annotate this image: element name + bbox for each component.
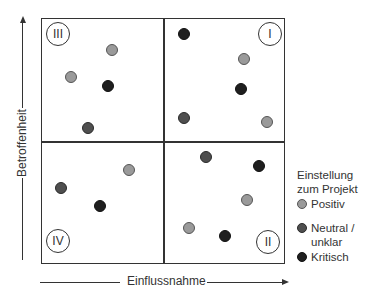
stakeholder-dot-positiv bbox=[65, 71, 77, 83]
critical-dot-icon bbox=[297, 252, 307, 262]
x-axis-line bbox=[207, 282, 283, 283]
y-axis-line bbox=[22, 178, 23, 260]
legend: Einstellung zum Projekt Positiv Neutral … bbox=[297, 168, 358, 264]
stakeholder-dot-positiv bbox=[241, 194, 253, 206]
y-axis: Betroffenheit bbox=[0, 0, 40, 280]
y-axis-label: Betroffenheit bbox=[15, 109, 29, 177]
neutral-dot-icon bbox=[297, 223, 307, 233]
stakeholder-dot-neutral bbox=[82, 122, 94, 134]
quadrant-label-ii: II bbox=[256, 230, 280, 254]
stakeholder-dot-positiv bbox=[106, 44, 118, 56]
quadrant-label-iii: III bbox=[46, 22, 70, 46]
y-axis-line bbox=[22, 22, 23, 108]
stakeholder-dot-neutral bbox=[55, 182, 67, 194]
x-axis-label: Einflussnahme bbox=[127, 274, 206, 288]
stakeholder-dot-kritisch bbox=[178, 28, 190, 40]
legend-label: Kritisch bbox=[311, 250, 349, 264]
legend-item-positiv: Positiv bbox=[297, 197, 358, 211]
legend-label: Positiv bbox=[311, 197, 345, 211]
legend-label-line: unklar bbox=[311, 235, 354, 249]
stakeholder-dot-positiv bbox=[183, 222, 195, 234]
x-axis-line bbox=[40, 282, 120, 283]
stakeholder-dot-kritisch bbox=[253, 160, 265, 172]
legend-item-neutral: Neutral / unklar bbox=[297, 221, 358, 249]
stakeholder-dot-neutral bbox=[200, 151, 212, 163]
stakeholder-dot-neutral bbox=[178, 112, 190, 124]
quadrant-label-i: I bbox=[258, 22, 282, 46]
matrix-horizontal-divider bbox=[41, 141, 285, 143]
positive-dot-icon bbox=[297, 199, 307, 209]
legend-item-kritisch: Kritisch bbox=[297, 250, 358, 264]
x-axis-arrow-icon bbox=[282, 279, 289, 285]
stakeholder-dot-kritisch bbox=[219, 230, 231, 242]
stakeholder-dot-positiv bbox=[238, 53, 250, 65]
stakeholder-dot-positiv bbox=[123, 164, 135, 176]
quadrant-label-iv: IV bbox=[46, 229, 70, 253]
legend-label: Neutral / unklar bbox=[311, 221, 354, 249]
stakeholder-dot-kritisch bbox=[102, 80, 114, 92]
legend-title: Einstellung zum Projekt bbox=[297, 168, 358, 196]
legend-title-line: zum Projekt bbox=[297, 182, 358, 196]
legend-label-line: Neutral / bbox=[311, 221, 354, 235]
stakeholder-dot-positiv bbox=[261, 116, 273, 128]
stakeholder-dot-kritisch bbox=[94, 200, 106, 212]
stakeholder-dot-kritisch bbox=[235, 83, 247, 95]
legend-title-line: Einstellung bbox=[297, 168, 358, 182]
